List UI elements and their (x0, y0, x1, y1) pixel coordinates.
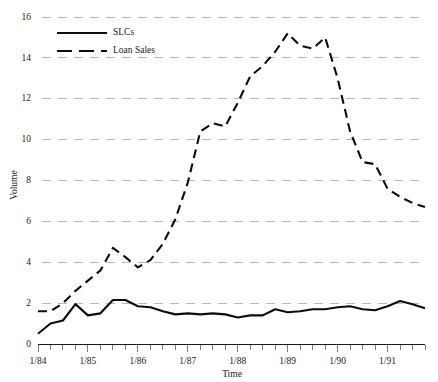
legend-label: Loan Sales (113, 45, 155, 55)
legend-label: SLCs (113, 27, 134, 37)
x-tick-label: 1/85 (79, 356, 96, 366)
x-tick-label: 1/88 (229, 356, 246, 366)
y-tick-label: 8 (26, 175, 31, 185)
series-line-loan-sales (38, 33, 425, 311)
x-tick-label: 1/84 (30, 356, 47, 366)
x-axis-group: 1/841/851/861/871/881/891/901/91 (30, 344, 425, 366)
y-tick-label: 0 (26, 339, 31, 349)
y-tick-label: 16 (22, 12, 32, 22)
y-tick-label: 4 (26, 257, 31, 267)
x-tick-label: 1/86 (129, 356, 146, 366)
gridlines-group (42, 17, 425, 303)
series-line-slcs (38, 300, 425, 334)
y-tick-label: 2 (26, 298, 31, 308)
x-tick-label: 1/91 (379, 356, 396, 366)
y-tick-label: 14 (22, 53, 32, 63)
x-axis-title: Time (222, 369, 242, 379)
legend-item: Loan Sales (57, 45, 155, 55)
y-tick-label: 6 (26, 216, 31, 226)
legend-item: SLCs (57, 27, 134, 37)
x-tick-label: 1/90 (329, 356, 346, 366)
x-tick-label: 1/87 (179, 356, 196, 366)
x-tick-label: 1/89 (279, 356, 296, 366)
volume-time-line-chart: 0246810121416 1/841/851/861/871/881/891/… (0, 0, 438, 382)
y-tick-label: 10 (22, 134, 32, 144)
y-axis-title: Volume (9, 170, 19, 199)
legend-group: SLCsLoan Sales (57, 27, 155, 55)
chart-container: 0246810121416 1/841/851/861/871/881/891/… (0, 0, 438, 382)
y-axis-group: 0246810121416 (22, 12, 32, 349)
series-group (38, 33, 425, 333)
y-tick-label: 12 (22, 93, 32, 103)
